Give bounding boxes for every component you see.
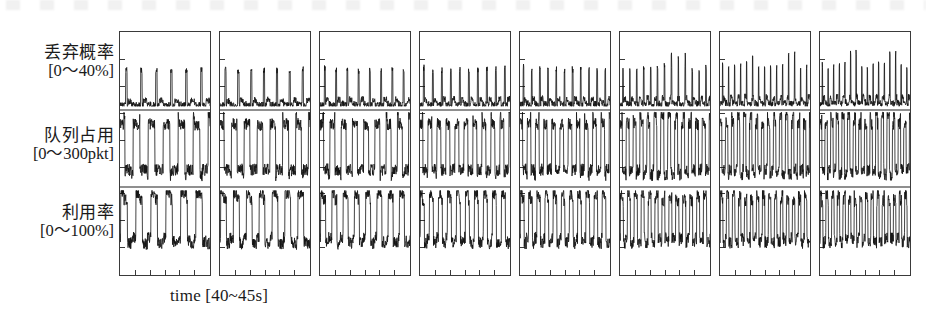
trace-band-1 — [620, 53, 710, 106]
trace-band-3 — [120, 191, 210, 250]
row-label-range: [0～300pkt] — [0, 145, 114, 163]
trace-band-3 — [220, 191, 310, 250]
row-label-range: [0～100%] — [0, 222, 114, 240]
trace-band-3 — [720, 191, 810, 249]
trace-band-1 — [520, 64, 610, 106]
trace-band-3 — [820, 191, 910, 249]
panel-waveforms — [520, 32, 610, 275]
xaxis-caption: time [40~45s] — [119, 286, 319, 306]
panel-waveforms — [120, 32, 210, 275]
trace-band-2 — [320, 112, 410, 181]
panel-4 — [419, 31, 511, 276]
trace-band-1 — [420, 65, 510, 107]
trace-band-2 — [820, 112, 910, 180]
row-label-queue-occupancy: 队列占用 [0～300pkt] — [0, 126, 114, 164]
trace-band-1 — [320, 65, 410, 106]
panel-waveforms — [420, 32, 510, 275]
panel-waveforms — [220, 32, 310, 275]
panel-waveforms — [320, 32, 410, 275]
trace-band-2 — [620, 112, 710, 180]
row-label-utilization: 利用率 [0～100%] — [0, 203, 114, 241]
panel-5 — [519, 31, 611, 276]
trace-band-1 — [820, 50, 910, 106]
row-label-name: 队列占用 — [0, 126, 114, 145]
row-label-drop-probability: 丢弃概率 [0～40%] — [0, 43, 114, 81]
panel-7 — [719, 31, 811, 276]
panel-waveforms — [820, 32, 910, 275]
panel-6 — [619, 31, 711, 276]
trace-band-1 — [720, 52, 810, 106]
trace-band-1 — [220, 67, 310, 107]
panel-strip — [119, 31, 911, 276]
panel-waveforms — [620, 32, 710, 275]
trace-band-3 — [620, 191, 710, 249]
trace-band-2 — [520, 112, 610, 180]
trace-band-3 — [320, 191, 410, 250]
trace-band-3 — [520, 191, 610, 249]
trace-band-2 — [420, 112, 510, 179]
row-label-name: 利用率 — [0, 203, 114, 222]
trace-band-3 — [420, 191, 510, 250]
panel-3 — [319, 31, 411, 276]
panel-1 — [119, 31, 211, 276]
row-label-group: 丢弃概率 [0～40%] 队列占用 [0～300pkt] 利用率 [0～100%… — [0, 31, 116, 276]
panel-2 — [219, 31, 311, 276]
trace-band-2 — [120, 112, 210, 181]
panel-8 — [819, 31, 911, 276]
simulation-panels-figure: 丢弃概率 [0～40%] 队列占用 [0～300pkt] 利用率 [0～100%… — [0, 0, 926, 325]
row-label-name: 丢弃概率 — [0, 43, 114, 62]
trace-band-2 — [220, 112, 310, 181]
row-label-range: [0～40%] — [0, 62, 114, 80]
trace-band-2 — [720, 112, 810, 180]
trace-band-1 — [120, 67, 210, 106]
panel-waveforms — [720, 32, 810, 275]
